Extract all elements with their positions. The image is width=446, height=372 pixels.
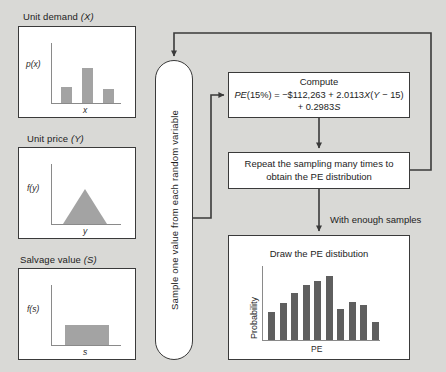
repeat-line-2: obtain the PE distribution <box>233 171 405 184</box>
formula-token-pe: PE <box>234 90 246 100</box>
axis-label-x-salvage-value: s <box>83 347 87 357</box>
plot-unit-demand: p(x) x <box>19 27 135 117</box>
panel-title-salvage-value: Salvage value (S) <box>20 254 97 265</box>
flowchart-diagram: Unit demand (X) p(x) x Unit price (Y) f(… <box>0 0 446 372</box>
compute-formula-line-2: + 0.2983S <box>233 101 405 113</box>
panel-salvage-value: f(s) s <box>18 268 136 360</box>
with-enough-samples-label: With enough samples <box>330 214 421 225</box>
panel-title-variable: (X) <box>81 11 94 22</box>
pe-distribution-chart: Draw the PE distibution Probability PE <box>229 236 409 359</box>
formula-token-close: − 15) <box>380 90 404 100</box>
axis-label-y-unit-price: f(y) <box>27 183 39 193</box>
plot-unit-price: f(y) y <box>19 148 135 238</box>
axis-label-x-unit-demand: x <box>83 105 87 115</box>
axis-label-y-salvage-value: f(s) <box>27 304 39 314</box>
compute-box[interactable]: Compute PE(15%) = −$112,263 + 2.0113X(Y … <box>228 72 410 118</box>
pe-chart-ylabel: Probability <box>249 297 259 339</box>
pe-bar-5 <box>314 281 321 340</box>
panel-title-text: Unit price <box>27 133 71 144</box>
arrow-capsule-to-compute <box>193 95 224 218</box>
axis-label-y-unit-demand: p(x) <box>26 59 41 69</box>
compute-heading: Compute <box>233 76 405 89</box>
pe-bar-3 <box>291 293 298 340</box>
panel-unit-demand: p(x) x <box>18 26 136 118</box>
axis-label-x-unit-price: y <box>83 226 87 236</box>
bar-3 <box>103 89 114 103</box>
panel-title-text: Unit demand <box>23 11 81 22</box>
bar-1 <box>61 87 72 103</box>
panel-title-text: Salvage value <box>20 254 84 265</box>
repeat-line-1: Repeat the sampling many times to <box>233 158 405 171</box>
axis-vertical <box>262 266 263 341</box>
panel-title-unit-price: Unit price (Y) <box>27 133 84 144</box>
pe-bar-1 <box>268 312 275 340</box>
axis-horizontal <box>262 340 380 341</box>
pe-chart-xlabel: PE <box>311 344 322 354</box>
pe-bar-10 <box>372 322 379 340</box>
formula-token-constant: (15%) = −$112,263 + 2.0113 <box>247 90 364 100</box>
pe-bar-7 <box>337 309 344 340</box>
pe-bar-2 <box>280 303 287 340</box>
panel-unit-price: f(y) y <box>18 147 136 239</box>
axis-vertical <box>51 43 52 104</box>
formula-token-salvage-coef: + 0.2983 <box>298 102 334 112</box>
formula-token-s: S <box>334 102 340 112</box>
plot-salvage-value: f(s) s <box>19 269 135 359</box>
pe-distribution-panel: Draw the PE distibution Probability PE <box>228 235 410 360</box>
axis-vertical <box>51 285 52 346</box>
repeat-box[interactable]: Repeat the sampling many times to obtain… <box>228 152 410 189</box>
sample-capsule[interactable]: Sample one value from each random variab… <box>155 60 193 360</box>
axis-vertical <box>51 164 52 225</box>
sample-capsule-label: Sample one value from each random variab… <box>169 110 180 310</box>
bar-2 <box>82 68 93 103</box>
triangular-density <box>63 189 107 224</box>
panel-title-variable: (S) <box>84 254 97 265</box>
uniform-density <box>65 325 109 345</box>
pe-bar-6 <box>326 276 333 340</box>
panel-title-unit-demand: Unit demand (X) <box>23 11 94 22</box>
pe-bar-4 <box>303 285 310 340</box>
pe-chart-title: Draw the PE distibution <box>229 248 409 259</box>
pe-bar-8 <box>349 302 356 340</box>
pe-bar-9 <box>360 305 367 340</box>
panel-title-variable: (Y) <box>71 133 84 144</box>
compute-formula-line-1: PE(15%) = −$112,263 + 2.0113X(Y − 15) <box>233 89 405 101</box>
